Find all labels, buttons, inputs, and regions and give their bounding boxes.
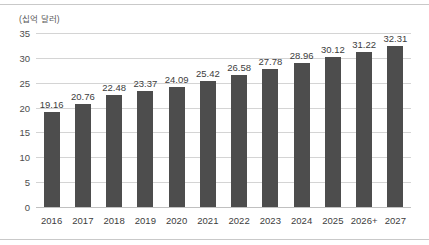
x-tick-slot: 2022 xyxy=(224,33,255,207)
y-axis-tick-label: 0 xyxy=(25,202,30,213)
x-tick-slot: 2025 xyxy=(317,33,348,207)
x-tick-slot: 2016 xyxy=(36,33,67,207)
x-axis-tick-label: 2017 xyxy=(72,215,93,226)
chart-figure: (십억 달러) 05101520253035 19.1620.7622.4823… xyxy=(0,0,429,245)
y-axis-unit-caption: (십억 달러) xyxy=(19,12,60,24)
top-divider-rule xyxy=(0,4,429,5)
plot-area: 05101520253035 19.1620.7622.4823.3724.09… xyxy=(36,33,411,207)
x-axis-tick-label: 2018 xyxy=(104,215,125,226)
y-axis-tick-label: 5 xyxy=(25,177,30,188)
x-tick-slot: 2017 xyxy=(67,33,98,207)
y-axis-tick-label: 35 xyxy=(19,28,30,39)
y-axis-tick-label: 15 xyxy=(19,127,30,138)
y-axis-tick-label: 30 xyxy=(19,52,30,63)
x-tick-slot: 2018 xyxy=(99,33,130,207)
x-tick-slot: 2021 xyxy=(192,33,223,207)
y-axis-tick-label: 10 xyxy=(19,152,30,163)
gridline xyxy=(36,207,411,208)
x-tick-slot: 2027 xyxy=(380,33,411,207)
x-tick-slot: 2019 xyxy=(130,33,161,207)
x-axis-tick-label: 2026+ xyxy=(351,215,378,226)
x-axis-tick-label: 2024 xyxy=(291,215,312,226)
y-axis-tick-label: 20 xyxy=(19,102,30,113)
x-tick-slot: 2024 xyxy=(286,33,317,207)
bottom-divider-rule xyxy=(0,239,429,240)
x-axis-tick-label: 2027 xyxy=(385,215,406,226)
x-tick-slot: 2020 xyxy=(161,33,192,207)
x-axis-tick-label: 2021 xyxy=(197,215,218,226)
y-axis-tick-label: 25 xyxy=(19,77,30,88)
x-axis-tick-label: 2020 xyxy=(166,215,187,226)
x-axis-tick-label: 2016 xyxy=(41,215,62,226)
x-tick-slot: 2026+ xyxy=(349,33,380,207)
x-axis-tick-label: 2022 xyxy=(229,215,250,226)
x-tick-slot: 2023 xyxy=(255,33,286,207)
x-axis-tick-label: 2023 xyxy=(260,215,281,226)
x-axis-tick-label: 2019 xyxy=(135,215,156,226)
x-axis-tick-label: 2025 xyxy=(322,215,343,226)
